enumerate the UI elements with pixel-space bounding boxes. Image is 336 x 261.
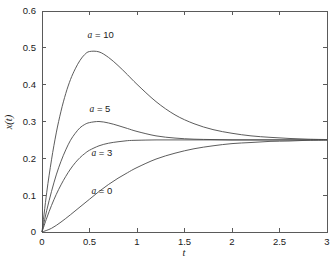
y-axis-label: x(t)	[3, 114, 15, 130]
x-tick-label: 0	[39, 236, 44, 247]
series-label-5: a = 5	[90, 103, 111, 114]
y-tick-label: 0.5	[23, 42, 36, 53]
y-tick-label: 0.6	[23, 5, 36, 16]
x-tick-label: 2	[229, 236, 234, 247]
figure-container: 00.10.20.30.40.50.6 00.511.522.53 a = 10…	[0, 0, 336, 261]
y-tick-label: 0	[31, 226, 36, 237]
x-tick-label: 0.5	[83, 236, 96, 247]
series-label-3: a = 3	[91, 147, 112, 158]
series-label-0: a = 0	[91, 185, 112, 196]
x-tick-label: 3	[324, 236, 329, 247]
y-tick-label: 0.3	[23, 116, 36, 127]
x-tick-label: 1.5	[178, 236, 191, 247]
series-label-10: a = 10	[88, 29, 114, 40]
chart-background	[0, 0, 336, 261]
x-tick-label: 1	[134, 236, 139, 247]
line-chart: 00.10.20.30.40.50.6 00.511.522.53 a = 10…	[0, 0, 336, 261]
x-tick-label: 2.5	[273, 236, 286, 247]
y-tick-label: 0.2	[23, 153, 36, 164]
y-tick-label: 0.4	[23, 79, 36, 90]
y-tick-label: 0.1	[23, 190, 36, 201]
x-tick-labels: 00.511.522.53	[39, 236, 329, 247]
